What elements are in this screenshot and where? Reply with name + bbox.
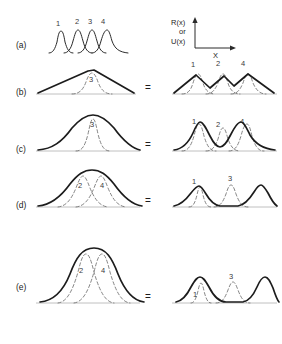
row-label-a: (a)	[16, 40, 27, 50]
component-label-b-right-1: 1	[191, 60, 195, 69]
row-b: (b) 3 = 1 2 4	[16, 59, 277, 97]
component-label-d-right-3: 3	[228, 174, 232, 183]
equals-sign-d: =	[145, 195, 151, 206]
component-label-e-right-3: 3	[229, 272, 233, 281]
y-axis-label-line2: or	[179, 27, 186, 36]
component-label-e-left-2: 2	[79, 266, 83, 275]
y-axis-label-line1: R(x)	[171, 18, 186, 27]
component-e-left-2	[58, 254, 114, 303]
component-e-left-4	[74, 254, 130, 303]
row-a: (a) 1 2 3 4	[16, 17, 128, 53]
y-axis-label-line3: U(x)	[171, 37, 186, 46]
row-c: (c) 3 = 1 2 4	[16, 115, 277, 154]
x-axis-arrow	[230, 45, 236, 50]
peak-label-a-3: 3	[88, 17, 92, 26]
envelope-b-right	[174, 74, 274, 93]
equals-sign-e: =	[145, 291, 151, 302]
component-label-b-right-2: 2	[216, 59, 220, 68]
peak-label-a-1: 1	[56, 19, 60, 28]
component-label-b-left-3: 3	[89, 75, 93, 84]
row-label-e: (e)	[16, 282, 27, 292]
curve-a-3	[78, 30, 106, 53]
row-label-b: (b)	[16, 87, 27, 97]
envelope-e-left	[40, 248, 144, 302]
component-label-e-right-1: 1	[193, 290, 197, 299]
component-label-c-left-3: 3	[90, 120, 94, 129]
envelope-c-right	[174, 122, 275, 150]
figure-root: (a) 1 2 3 4 R(x) or U(x) X (b)	[0, 0, 282, 344]
component-label-e-left-4: 4	[101, 266, 105, 275]
y-axis-arrow	[192, 17, 197, 23]
row-label-d: (d)	[16, 200, 27, 210]
decomposition-figure: (a) 1 2 3 4 R(x) or U(x) X (b)	[0, 0, 282, 344]
axis-key: R(x) or U(x) X	[171, 17, 236, 60]
row-e: (e) 2 4 = 1 3	[16, 248, 279, 303]
equals-sign-c: =	[145, 139, 151, 150]
peak-label-a-2: 2	[75, 17, 79, 26]
row-d: (d) 2 4 = 1 3	[16, 170, 277, 210]
component-label-c-right-1: 1	[192, 117, 196, 126]
component-label-d-left-2: 2	[78, 181, 82, 190]
component-e-right-3	[216, 282, 250, 303]
equals-sign-b: =	[145, 82, 151, 93]
row-label-c: (c)	[16, 144, 26, 154]
envelope-c-left	[38, 115, 140, 150]
component-label-b-right-4: 4	[241, 59, 245, 68]
peak-label-a-4: 4	[101, 17, 105, 26]
component-label-d-left-4: 4	[100, 181, 104, 190]
envelope-e-right	[176, 277, 279, 302]
component-label-d-right-1: 1	[192, 177, 196, 186]
component-label-c-right-2: 2	[216, 120, 220, 129]
